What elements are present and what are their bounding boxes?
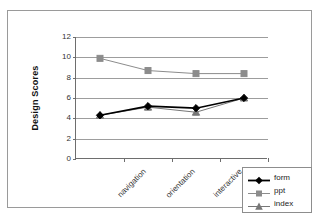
legend-item-form: form bbox=[247, 171, 307, 184]
legend-marker-square-icon bbox=[247, 185, 271, 196]
x-tick-label: orientation bbox=[164, 167, 197, 200]
data-point bbox=[192, 105, 199, 112]
data-point bbox=[145, 68, 151, 74]
series-layer bbox=[76, 37, 268, 159]
x-tick-mark bbox=[268, 158, 269, 162]
y-tick-label: 10 bbox=[62, 53, 71, 61]
y-tick-mark bbox=[73, 159, 76, 160]
series-index bbox=[96, 94, 247, 118]
chart-screenshot: Design Scores 024681012 navigationorient… bbox=[0, 0, 321, 216]
legend-label: form bbox=[274, 174, 290, 182]
chart-legend: formpptindex bbox=[242, 167, 312, 213]
series-ppt bbox=[97, 55, 247, 76]
legend-item-index: index bbox=[247, 197, 307, 210]
y-tick-label: 4 bbox=[67, 114, 71, 122]
plot-area: 024681012 bbox=[75, 37, 267, 159]
series-line bbox=[100, 98, 244, 115]
legend-item-ppt: ppt bbox=[247, 184, 307, 197]
y-tick-label: 6 bbox=[67, 94, 71, 102]
data-point bbox=[241, 71, 247, 77]
series-line bbox=[100, 58, 244, 73]
x-tick-label: interactive bbox=[212, 167, 244, 199]
data-point bbox=[193, 71, 199, 77]
series-form bbox=[96, 94, 247, 118]
legend-marker-diamond-icon bbox=[247, 172, 271, 183]
legend-marker-triangle-icon bbox=[247, 198, 271, 209]
legend-label: index bbox=[274, 200, 293, 208]
y-tick-label: 12 bbox=[62, 33, 71, 41]
y-axis-title: Design Scores bbox=[28, 37, 42, 159]
y-tick-label: 8 bbox=[67, 74, 71, 82]
y-tick-label: 0 bbox=[67, 155, 71, 163]
data-point bbox=[97, 55, 103, 61]
y-tick-label: 2 bbox=[67, 135, 71, 143]
legend-label: ppt bbox=[274, 187, 285, 195]
x-tick-label: navigation bbox=[116, 167, 148, 199]
chart-frame: Design Scores 024681012 navigationorient… bbox=[7, 10, 312, 208]
